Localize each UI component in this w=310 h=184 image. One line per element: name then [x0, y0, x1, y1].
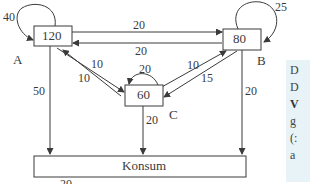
edge-label-a-to-b: 20: [133, 18, 145, 33]
edge-label-a-to-c: 10: [78, 71, 90, 86]
node-c-value: 60: [137, 87, 150, 103]
node-c-label: C: [169, 107, 178, 123]
edge-label-b-to-a: 20: [135, 44, 147, 59]
side-line-2: D: [290, 81, 299, 94]
edge-label-c-self: 20: [139, 62, 151, 77]
node-b-label: B: [257, 53, 266, 69]
edge-label-a-to-konsum: 50: [33, 84, 45, 99]
side-line-1: D: [290, 64, 299, 77]
node-a-label: A: [13, 52, 22, 68]
node-a-value: 120: [42, 28, 62, 44]
edge-label-b-to-konsum: 20: [245, 84, 257, 99]
side-text-panel: D D V g (: a: [286, 60, 310, 182]
edge-label-b-self: 25: [275, 0, 287, 15]
side-line-6: a: [290, 149, 295, 162]
edge-label-bottom-partial: 20: [60, 177, 72, 184]
node-konsum-label: Konsum: [122, 158, 166, 174]
node-b-value: 80: [233, 31, 246, 47]
edge-label-a-self: 40: [3, 10, 15, 25]
edge-label-c-to-konsum: 20: [146, 113, 158, 128]
side-line-5: (:: [290, 132, 297, 145]
edge-label-c-to-b: 10: [187, 58, 199, 73]
edge-label-b-to-c: 15: [201, 71, 213, 86]
side-line-3: V: [290, 98, 299, 111]
side-line-4: g: [290, 115, 296, 128]
edge-label-c-to-a: 10: [91, 57, 103, 72]
